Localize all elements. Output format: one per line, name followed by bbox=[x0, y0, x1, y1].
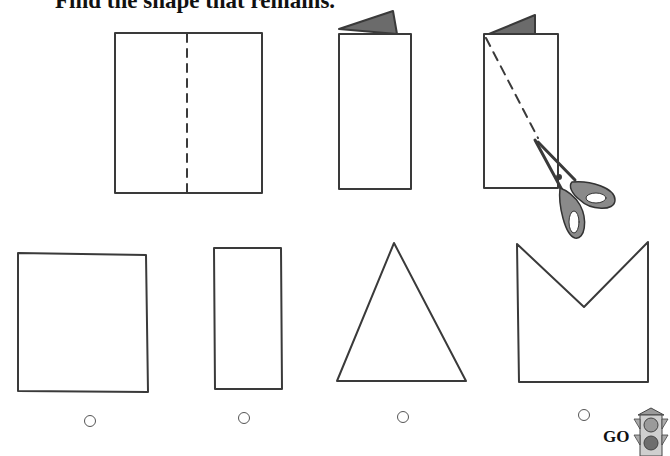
answer-radio-square[interactable] bbox=[84, 415, 96, 427]
triangle-choice-shape bbox=[337, 243, 466, 381]
folded-paper-illustration bbox=[339, 11, 411, 189]
traffic-light-icon bbox=[632, 405, 670, 456]
answer-radio-m-shape[interactable] bbox=[578, 409, 590, 421]
go-label: GO bbox=[603, 427, 629, 447]
paper-with-fold-line-illustration bbox=[115, 33, 262, 193]
answer-radio-triangle[interactable] bbox=[397, 411, 409, 423]
rectangle-choice-shape bbox=[214, 248, 282, 389]
answer-radio-rectangle[interactable] bbox=[238, 412, 250, 424]
square-choice-shape bbox=[18, 253, 148, 392]
worksheet-illustrations bbox=[0, 0, 670, 456]
m-shape-choice-shape bbox=[517, 242, 648, 382]
